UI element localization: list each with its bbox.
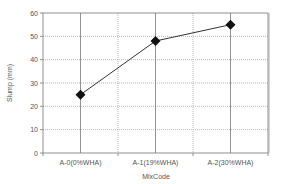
- y-tick-label: 30: [30, 80, 38, 87]
- x-tick-label: A-0(0%WHA): [59, 159, 101, 167]
- y-tick-label: 0: [34, 150, 38, 157]
- y-tick-label: 20: [30, 103, 38, 110]
- y-tick-label: 40: [30, 56, 38, 63]
- diamond-marker: [226, 20, 236, 30]
- x-tick-labels: A-0(0%WHA)A-1(19%WHA)A-2(30%WHA): [59, 159, 253, 167]
- y-tick-labels: 0102030405060: [30, 10, 38, 157]
- y-tick-label: 10: [30, 126, 38, 133]
- diamond-marker: [76, 90, 86, 100]
- y-tick-label: 60: [30, 10, 38, 17]
- x-tick-label: A-2(30%WHA): [208, 159, 254, 167]
- axes: [40, 13, 269, 156]
- diamond-marker: [151, 36, 161, 46]
- x-tick-label: A-1(19%WHA): [133, 159, 179, 167]
- slump-chart: 0102030405060 A-0(0%WHA)A-1(19%WHA)A-2(3…: [0, 0, 285, 184]
- y-axis-label: Slump (mm): [6, 64, 14, 102]
- x-axis-label: MixCode: [142, 173, 170, 180]
- grid-lines: [43, 13, 268, 153]
- y-tick-label: 50: [30, 33, 38, 40]
